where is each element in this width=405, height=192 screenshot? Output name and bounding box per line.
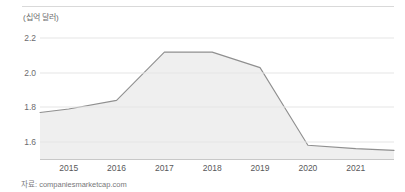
y-axis-tick-label: 1.8 <box>24 103 36 112</box>
top-divider-rule <box>22 6 394 7</box>
x-axis-line <box>40 159 394 160</box>
y-axis-tick-label: 2.0 <box>24 68 36 77</box>
gridline-y <box>40 38 394 39</box>
y-axis-tick-label: 2.2 <box>24 34 36 43</box>
x-axis-tick-label: 2018 <box>203 163 222 174</box>
area-series-svg <box>40 28 394 159</box>
x-axis-tick-label: 2015 <box>59 163 78 174</box>
x-axis-tick-label: 2016 <box>107 163 126 174</box>
gridline-y <box>40 107 394 108</box>
gridline-y <box>40 72 394 73</box>
y-axis-unit-label: (십억 달러) <box>23 13 59 23</box>
x-axis-tick-label: 2017 <box>155 163 174 174</box>
x-axis-tick-label: 2021 <box>346 163 365 174</box>
gridline-y <box>40 141 394 142</box>
x-axis-tick-label: 2019 <box>251 163 270 174</box>
chart-figure: (십억 달러) 2.22.01.81.6 자료: companiesmarket… <box>0 0 405 192</box>
y-axis-tick-label: 1.6 <box>24 137 36 146</box>
area-fill-path <box>40 52 394 159</box>
source-caption: 자료: companiesmarketcap.com <box>21 180 127 190</box>
plot-area: 2.22.01.81.6 <box>40 28 394 159</box>
x-axis-tick-label: 2020 <box>298 163 317 174</box>
